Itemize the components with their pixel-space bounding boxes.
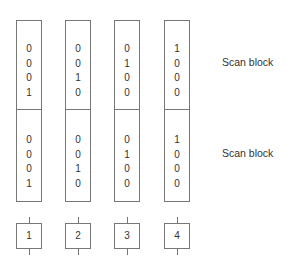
bit: 0: [17, 133, 41, 148]
connector-tick: [177, 249, 178, 255]
bits-bottom: 0 0 1 0: [66, 133, 90, 191]
numbered-box-2: 2: [65, 223, 91, 249]
bit: 0: [66, 148, 90, 163]
connector-tick: [177, 217, 178, 223]
block-divider: [164, 109, 190, 110]
bit: 0: [66, 86, 90, 101]
bits-top: 0 1 0 0: [115, 42, 139, 100]
scan-column-1: 0 0 0 1 0 0 0 1: [16, 20, 42, 202]
box-number: 2: [75, 230, 81, 241]
block-divider: [16, 109, 42, 110]
bit: 0: [165, 148, 189, 163]
bit: 0: [17, 162, 41, 177]
bit: 0: [115, 177, 139, 192]
bit: 0: [17, 148, 41, 163]
numbered-box-1: 1: [16, 223, 42, 249]
box-number: 3: [124, 230, 130, 241]
bit: 0: [115, 71, 139, 86]
bit: 0: [115, 162, 139, 177]
connector-tick: [78, 217, 79, 223]
box-number: 1: [26, 230, 32, 241]
connector-tick: [127, 217, 128, 223]
bit: 0: [115, 42, 139, 57]
bit: 1: [66, 162, 90, 177]
bit: 1: [115, 148, 139, 163]
block-divider: [65, 109, 91, 110]
bit: 0: [165, 86, 189, 101]
numbered-box-4: 4: [164, 223, 190, 249]
bit: 0: [165, 177, 189, 192]
scan-block-label-bottom: Scan block: [222, 147, 273, 159]
bit: 0: [17, 42, 41, 57]
bit: 1: [165, 42, 189, 57]
connector-tick: [29, 217, 30, 223]
connector-tick: [78, 249, 79, 255]
scan-column-2: 0 0 1 0 0 0 1 0: [65, 20, 91, 202]
connector-tick: [127, 249, 128, 255]
bit: 0: [115, 86, 139, 101]
bit: 0: [165, 57, 189, 72]
block-divider: [114, 109, 140, 110]
bits-bottom: 0 1 0 0: [115, 133, 139, 191]
bits-bottom: 0 0 0 1: [17, 133, 41, 191]
bit: 1: [66, 71, 90, 86]
scan-block-label-top: Scan block: [222, 56, 273, 68]
bit: 1: [165, 133, 189, 148]
bit: 1: [17, 86, 41, 101]
bit: 0: [115, 133, 139, 148]
bit: 0: [17, 57, 41, 72]
bit: 0: [66, 133, 90, 148]
bits-top: 1 0 0 0: [165, 42, 189, 100]
bits-top: 0 0 0 1: [17, 42, 41, 100]
scan-column-3: 0 1 0 0 0 1 0 0: [114, 20, 140, 202]
bit: 0: [165, 162, 189, 177]
bit: 1: [115, 57, 139, 72]
bit: 0: [66, 42, 90, 57]
connector-tick: [29, 249, 30, 255]
bit: 0: [66, 57, 90, 72]
bit: 0: [17, 71, 41, 86]
bit: 0: [165, 71, 189, 86]
bits-top: 0 0 1 0: [66, 42, 90, 100]
scan-column-4: 1 0 0 0 1 0 0 0: [164, 20, 190, 202]
box-number: 4: [174, 230, 180, 241]
bit: 0: [66, 177, 90, 192]
numbered-box-3: 3: [114, 223, 140, 249]
bits-bottom: 1 0 0 0: [165, 133, 189, 191]
bit: 1: [17, 177, 41, 192]
